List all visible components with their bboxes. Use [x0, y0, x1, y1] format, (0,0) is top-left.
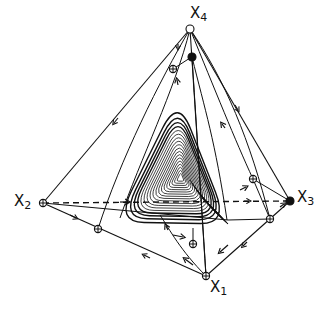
- spiral-attractor: [126, 113, 228, 224]
- vertex-label-x4: X4: [190, 6, 207, 23]
- sink-point-icon: [188, 53, 196, 61]
- saddle-point-icon: [39, 199, 46, 206]
- label-subscript: 3: [307, 195, 314, 208]
- saddle-point-icon: [202, 272, 209, 279]
- saddle-point-icon: [249, 175, 256, 182]
- vertex-label-x2: X2: [14, 194, 31, 211]
- label-base: X: [297, 188, 307, 206]
- label-subscript: 1: [220, 285, 227, 298]
- edge-x2-x3-hidden: [43, 201, 290, 203]
- phase-portrait-diagram: X1 X2 X3 X4: [0, 0, 325, 309]
- label-subscript: 4: [200, 11, 207, 24]
- simplex-plot: [0, 0, 325, 309]
- interior-arrows: [120, 80, 246, 265]
- label-base: X: [14, 192, 24, 210]
- vertex-label-x1: X1: [210, 280, 227, 297]
- simplex-edges: [43, 29, 290, 276]
- trajectories: [43, 29, 290, 276]
- source-point-icon: [186, 25, 194, 33]
- saddle-point-icon: [94, 225, 101, 232]
- edge-arrows: [70, 44, 284, 258]
- vertex-label-x3: X3: [297, 190, 314, 207]
- saddle-point-icon: [189, 240, 196, 247]
- label-subscript: 2: [24, 199, 31, 212]
- saddle-point-icon: [169, 65, 176, 72]
- saddle-point-icon: [266, 215, 273, 222]
- sink-point-icon: [286, 197, 294, 205]
- label-base: X: [210, 278, 220, 296]
- label-base: X: [190, 4, 200, 22]
